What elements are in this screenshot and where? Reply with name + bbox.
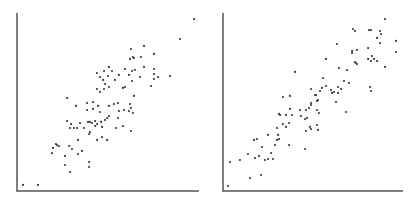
data-point [289,95,291,97]
data-point [256,138,258,140]
data-point [291,114,293,116]
data-point [132,112,134,114]
data-point [376,37,378,39]
data-point [139,76,141,78]
data-point [114,79,116,81]
data-point [356,49,358,51]
data-point [179,38,181,40]
data-point [86,102,88,104]
data-point [316,100,318,102]
data-point [351,50,353,52]
data-point [267,158,269,160]
data-point [128,74,130,76]
data-point [169,75,171,77]
data-point [68,145,70,147]
data-point [96,88,98,90]
data-point [87,121,89,123]
data-point [58,145,60,147]
data-points [227,18,397,187]
data-point [102,79,104,81]
data-point [282,96,284,98]
data-point [300,115,302,117]
data-point [325,58,327,60]
data-point [384,66,386,68]
data-point [101,126,103,128]
data-point [249,177,251,179]
data-point [294,71,296,73]
data-point [107,75,109,77]
data-point [122,87,124,89]
data-point [101,136,103,138]
data-point [97,105,99,107]
data-point [94,125,96,127]
data-point [299,109,301,111]
data-point [278,138,280,140]
data-point [130,107,132,109]
data-point [106,117,108,119]
data-point [270,152,272,154]
data-point [96,139,98,141]
data-point [308,107,310,109]
data-point [227,185,229,187]
data-point [89,131,91,133]
data-point [337,92,339,94]
data-point [380,33,382,35]
data-point [314,94,316,96]
data-point [88,166,90,168]
data-point [99,111,101,113]
data-point [71,148,73,150]
data-point [285,126,287,128]
data-point [322,77,324,79]
data-point [254,157,256,159]
data-point [22,184,24,186]
data-point [157,76,159,78]
data-point [310,104,312,106]
data-point [108,66,110,68]
data-point [100,121,102,123]
data-point [103,70,105,72]
data-point [153,73,155,75]
data-point [88,161,90,163]
data-point [370,60,372,62]
data-point [77,139,79,141]
data-point [133,57,135,59]
data-point [317,129,319,131]
data-point [239,159,241,161]
scatter-plot-left-canvas [0,0,210,199]
data-point [108,105,110,107]
data-point [122,125,124,127]
data-point [113,103,115,105]
data-point [81,150,83,152]
data-point [70,123,72,125]
data-point [258,155,260,157]
data-point [117,102,119,104]
data-point [150,85,152,87]
data-point [131,80,133,82]
data-point [379,42,381,44]
data-point [79,122,81,124]
data-point [69,127,71,129]
data-point [264,159,266,161]
data-point [333,91,335,93]
data-point [274,144,276,146]
data-points [22,18,195,186]
data-point [104,119,106,121]
data-point [140,56,142,58]
data-point [75,105,77,107]
data-point [289,108,291,110]
data-point [351,52,353,54]
data-point [64,164,66,166]
data-point [118,74,120,76]
data-point [91,122,93,124]
data-point [373,58,375,60]
data-point [288,122,290,124]
scatter-plot-left [0,0,210,199]
data-point [89,121,91,123]
data-point [395,51,397,53]
data-point [348,82,350,84]
data-point [338,67,340,69]
data-point [129,58,131,60]
data-point [130,130,132,132]
data-point [129,103,131,105]
data-point [278,113,280,115]
